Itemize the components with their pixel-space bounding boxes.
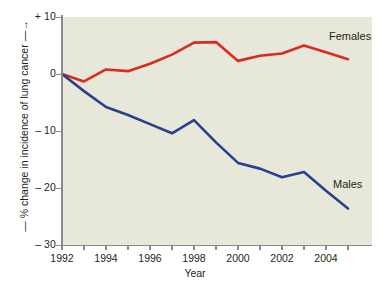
series-line-males <box>62 74 348 209</box>
x-tick <box>171 245 173 250</box>
y-tick <box>56 245 61 247</box>
x-tick <box>347 245 349 250</box>
lung-cancer-incidence-chart: + 100– 10– 20– 30 1992199419961998200020… <box>0 0 390 291</box>
x-tick <box>149 245 151 250</box>
y-tick-label: – 30 <box>35 238 56 250</box>
series-lines-layer <box>0 0 390 291</box>
y-tick <box>56 17 61 19</box>
x-tick-label: 2002 <box>270 252 293 264</box>
x-axis-title: Year <box>0 267 390 279</box>
series-label-males: Males <box>333 178 362 190</box>
series-label-females: Females <box>329 30 371 42</box>
x-tick <box>259 245 261 250</box>
y-tick-label: + 10 <box>35 10 56 22</box>
series-line-females <box>62 42 348 81</box>
x-tick <box>325 245 327 250</box>
x-tick <box>237 245 239 250</box>
x-tick <box>61 245 63 250</box>
x-tick <box>83 245 85 250</box>
y-tick <box>56 74 61 76</box>
y-tick-label: – 20 <box>35 181 56 193</box>
x-tick <box>127 245 129 250</box>
y-tick <box>56 188 61 190</box>
x-tick <box>105 245 107 250</box>
x-tick-label: 2004 <box>314 252 337 264</box>
x-tick-label: 1998 <box>182 252 205 264</box>
y-tick-label: – 10 <box>35 124 56 136</box>
x-tick-label: 1994 <box>94 252 117 264</box>
x-tick-label: 1996 <box>138 252 161 264</box>
y-tick <box>56 131 61 133</box>
x-tick <box>281 245 283 250</box>
y-axis-line <box>61 15 63 246</box>
y-axis-title: — % change in incidence of lung cancer —… <box>18 6 30 246</box>
x-tick <box>303 245 305 250</box>
x-tick-label: 1992 <box>50 252 73 264</box>
x-tick <box>193 245 195 250</box>
x-tick-label: 2000 <box>226 252 249 264</box>
y-tick-label: 0 <box>50 67 56 79</box>
x-tick <box>215 245 217 250</box>
